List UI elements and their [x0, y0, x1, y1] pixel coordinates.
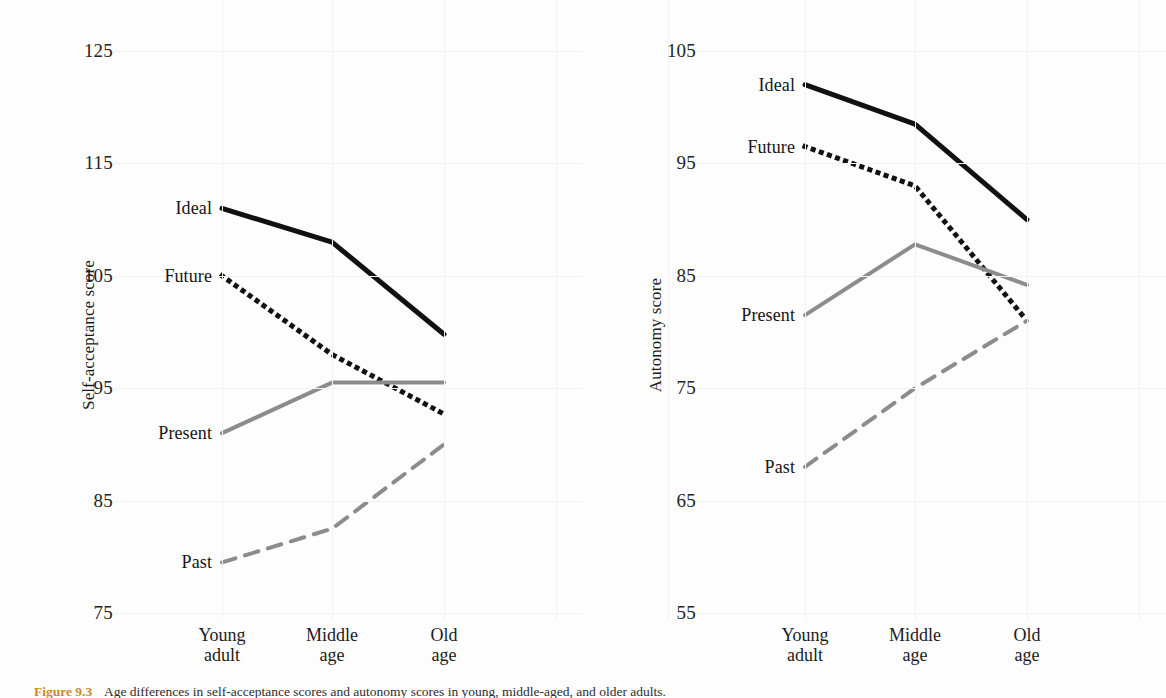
gridline-horizontal: [696, 276, 1166, 277]
y-tick-label: 65: [640, 490, 696, 512]
gridline-horizontal: [113, 501, 583, 502]
series-label-ideal: Ideal: [176, 198, 212, 219]
y-tick-label: 85: [640, 265, 696, 287]
series-label-future: Future: [747, 136, 795, 157]
x-tick-label: Old age: [1014, 625, 1041, 665]
series-line: [222, 276, 444, 414]
series-line: [805, 321, 1027, 467]
x-tick-label: Young adult: [198, 625, 245, 665]
gridline-vertical: [556, 0, 557, 619]
figure-number: Figure 9.3: [34, 684, 92, 698]
gridline-vertical: [222, 0, 223, 619]
y-tick-label: 105: [57, 265, 113, 287]
plot-area-left: IdealFuturePresentPastYoung adultMiddle …: [113, 0, 583, 670]
gridline-vertical: [915, 0, 916, 619]
y-tick-label: 105: [640, 40, 696, 62]
chart-panel-self-acceptance: Self-acceptance score 125115105958575 Id…: [0, 0, 583, 670]
figure-caption: Figure 9.3 Age differences in self-accep…: [34, 684, 1144, 698]
gridline-horizontal: [113, 163, 583, 164]
gridline-horizontal: [113, 51, 583, 52]
y-tick-label: 125: [57, 40, 113, 62]
series-label-future: Future: [164, 265, 212, 286]
chart-panel-autonomy: Autonomy score 1059585756555 IdealFuture…: [583, 0, 1166, 670]
gridline-vertical: [332, 0, 333, 619]
y-tick-label: 75: [640, 377, 696, 399]
y-axis-ticks-left: 125115105958575: [45, 0, 113, 670]
series-line: [222, 444, 444, 562]
gridline-vertical: [805, 0, 806, 619]
y-tick-label: 75: [57, 602, 113, 624]
gridline-vertical: [1139, 0, 1140, 619]
series-label-past: Past: [765, 456, 795, 477]
y-tick-label: 115: [57, 152, 113, 174]
series-lines-right: [696, 0, 1166, 670]
series-label-present: Present: [158, 423, 212, 444]
series-line: [222, 208, 444, 334]
y-tick-label: 55: [640, 602, 696, 624]
series-line: [222, 383, 444, 434]
plot-area-right: IdealFuturePresentPastYoung adultMiddle …: [696, 0, 1166, 670]
gridline-vertical: [1027, 0, 1028, 619]
y-tick-label: 95: [640, 152, 696, 174]
gridline-horizontal: [696, 613, 1166, 614]
gridline-horizontal: [696, 163, 1166, 164]
gridline-horizontal: [113, 388, 583, 389]
gridline-horizontal: [696, 388, 1166, 389]
gridline-vertical: [444, 0, 445, 619]
series-line: [805, 85, 1027, 220]
y-tick-label: 85: [57, 490, 113, 512]
gridline-horizontal: [113, 613, 583, 614]
x-tick-label: Young adult: [781, 625, 828, 665]
x-tick-label: Middle age: [306, 625, 358, 665]
series-label-ideal: Ideal: [759, 74, 795, 95]
x-tick-label: Old age: [431, 625, 458, 665]
gridline-horizontal: [696, 51, 1166, 52]
y-tick-label: 95: [57, 377, 113, 399]
gridline-horizontal: [696, 501, 1166, 502]
figure-container: Self-acceptance score 125115105958575 Id…: [0, 0, 1166, 698]
series-label-past: Past: [182, 552, 212, 573]
figure-caption-text: Age differences in self-acceptance score…: [104, 684, 666, 698]
x-tick-label: Middle age: [889, 625, 941, 665]
series-label-present: Present: [741, 305, 795, 326]
y-axis-ticks-right: 1059585756555: [628, 0, 696, 670]
